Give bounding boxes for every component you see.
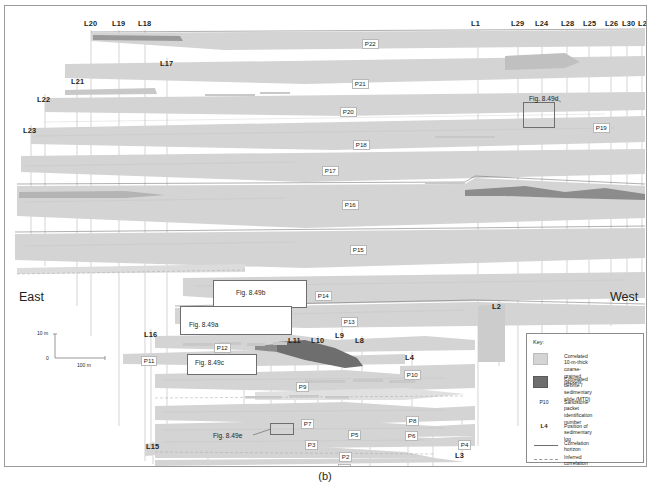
key-item-inferred-correlation-label: Inferred correlation — [564, 454, 588, 467]
mtd-swatch-icon — [533, 376, 548, 388]
packet-label-P20: P20 — [340, 107, 357, 117]
packet-label-P7: P7 — [301, 419, 314, 429]
log-label-L8: L8 — [355, 337, 364, 344]
key-title: Key: — [533, 339, 544, 345]
log-label-L2: L2 — [492, 303, 501, 310]
solid-line-icon — [534, 445, 558, 446]
packet-number-symbol: P10 — [533, 399, 555, 405]
log-label-L16: L16 — [144, 331, 157, 338]
packet-label-P16: P16 — [342, 200, 359, 210]
log-label-L28: L28 — [561, 20, 574, 27]
key-item-packet-number-label: Sandstone packet identification number — [564, 399, 592, 426]
log-label-L23: L23 — [23, 127, 36, 134]
packet-label-P2: P2 — [339, 452, 352, 462]
packet-label-P19: P19 — [593, 123, 610, 133]
log-label-L22: L22 — [37, 96, 50, 103]
packet-label-P9: P9 — [296, 382, 309, 392]
direction-label-west: West — [610, 290, 638, 304]
key-legend: Key: Correlated 10-m-thick coarse-graine… — [526, 333, 644, 463]
scale-horizontal-label: 100 m — [77, 362, 91, 368]
log-label-L17: L17 — [160, 60, 173, 67]
packet-label-P3: P3 — [305, 440, 318, 450]
log-position-symbol: L4 — [533, 423, 555, 429]
scale-vertical-label: 10 m — [37, 330, 48, 336]
fig-callout-leader-d — [553, 94, 565, 106]
packet-label-P11: P11 — [141, 356, 157, 366]
log-label-L1: L1 — [471, 20, 480, 27]
cross-section-panel: L20 L19 L18 L1 L29 L24 L28 L25 L26 L30 L… — [4, 5, 647, 467]
direction-label-east: East — [19, 290, 44, 304]
packet-label-P15: P15 — [350, 245, 367, 255]
log-label-L4: L4 — [405, 354, 414, 361]
packet-label-P6: P6 — [405, 431, 418, 441]
log-label-L25: L25 — [583, 20, 596, 27]
fig-callout-box-d — [523, 102, 555, 128]
log-label-L29: L29 — [511, 20, 524, 27]
packet-label-P1: P1 — [338, 464, 351, 467]
log-label-L9: L9 — [335, 332, 344, 339]
log-label-L15: L15 — [146, 443, 159, 450]
packet-label-P22: P22 — [362, 39, 379, 49]
packet-label-P10: P10 — [404, 370, 421, 380]
packet-label-P13: P13 — [341, 317, 358, 327]
fig-callout-label-c: Fig. 8.49c — [195, 360, 224, 367]
fig-callout-label-e: Fig. 8.49e — [213, 433, 242, 440]
log-label-L26: L26 — [605, 20, 618, 27]
dashed-line-icon — [534, 459, 558, 460]
log-label-L3: L3 — [455, 452, 464, 459]
log-label-L30: L30 — [622, 20, 635, 27]
packet-label-P12: P12 — [214, 343, 231, 353]
packet-label-P17: P17 — [322, 166, 339, 176]
log-label-L10: L10 — [311, 337, 324, 344]
scale-bar-graphic — [53, 332, 111, 366]
log-label-L19: L19 — [112, 20, 125, 27]
log-label-L27: L27 — [638, 20, 647, 27]
figure-page: L20 L19 L18 L1 L29 L24 L28 L25 L26 L30 L… — [0, 0, 650, 495]
scale-bar: 10 m 0 100 m — [35, 324, 115, 374]
packet-swatch-icon — [533, 353, 548, 365]
log-label-L21: L21 — [71, 78, 84, 85]
scale-origin-label: 0 — [46, 355, 49, 361]
log-label-L18: L18 — [138, 20, 151, 27]
log-label-L24: L24 — [535, 20, 548, 27]
figure-caption: (b) — [0, 470, 650, 482]
packet-label-P18: P18 — [353, 140, 370, 150]
fig-callout-leader-e — [251, 428, 273, 438]
fig-callout-label-b: Fig. 8.49b — [236, 290, 265, 297]
packet-label-P14: P14 — [315, 291, 332, 301]
packet-label-P21: P21 — [352, 79, 369, 89]
log-label-L11: L11 — [288, 337, 301, 344]
packet-label-P5: P5 — [348, 430, 361, 440]
fig-callout-label-a: Fig. 8.49a — [189, 322, 218, 329]
log-label-L20: L20 — [84, 20, 97, 27]
key-item-correlation-horizon-label: Correlation horizon — [564, 440, 589, 453]
fig-callout-box-e — [270, 423, 294, 435]
packet-label-P4: P4 — [458, 440, 471, 450]
packet-label-P8: P8 — [406, 416, 419, 426]
